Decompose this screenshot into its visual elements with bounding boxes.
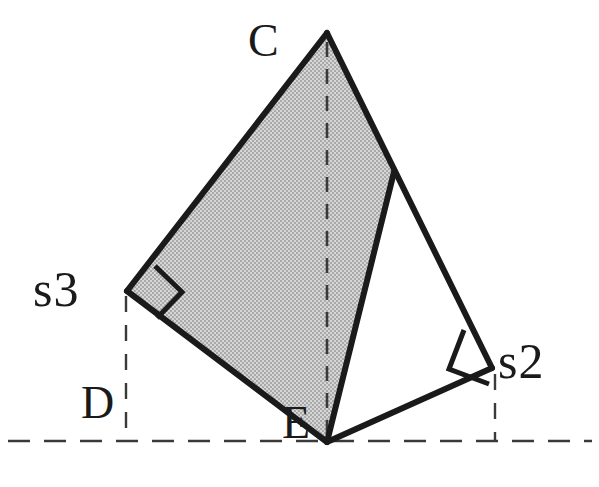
edge-s2-to-E (327, 368, 492, 442)
label-baseline-D: D (81, 380, 114, 426)
label-apex-C: C (248, 18, 279, 64)
geometry-figure: C s3 s2 D E (0, 0, 599, 487)
shaded-triangle-C-s3-E (127, 33, 327, 442)
right-angle-marker-s2 (449, 330, 489, 384)
label-baseline-E: E (282, 400, 310, 446)
label-foot-s2: s2 (498, 336, 544, 386)
label-foot-s3: s3 (33, 264, 79, 314)
